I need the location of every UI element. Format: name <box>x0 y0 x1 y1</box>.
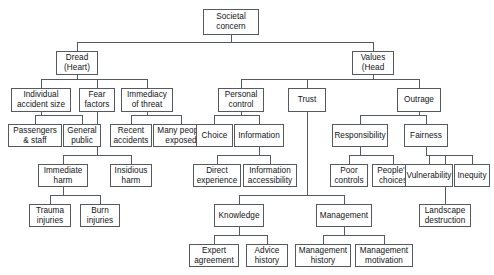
node-dread-heart: Dread (Heart) <box>56 51 98 75</box>
node-trauma-injuries: Trauma injuries <box>29 204 71 227</box>
node-management: Management <box>316 204 372 227</box>
node-fairness: Fairness <box>404 124 448 147</box>
node-values-head: Values (Head <box>352 51 394 75</box>
node-outrage: Outrage <box>397 88 441 112</box>
node-trust: Trust <box>288 88 326 112</box>
node-management-motivation: Management motivation <box>355 244 413 267</box>
node-information-access: Information accessibility <box>243 164 297 187</box>
node-responsibility: Responsibility <box>332 124 388 147</box>
node-immediacy-threat: Immediacy of threat <box>121 88 173 112</box>
node-information: Information <box>234 124 284 147</box>
node-societal-concern: Societal concern <box>203 9 259 35</box>
node-immediate-harm: Immediate harm <box>38 164 88 187</box>
node-direct-experience: Direct experience <box>193 164 241 187</box>
node-fear-factors: Fear factors <box>79 88 115 112</box>
node-expert-agreement: Expert agreement <box>189 244 239 267</box>
node-advice-history: Advice history <box>246 244 288 267</box>
node-general-public: General public <box>63 124 101 147</box>
node-insidious-harm: Insidious harm <box>110 164 152 187</box>
node-individual-accident: Individual accident size <box>11 88 71 112</box>
diagram-canvas: Societal concernDread (Heart)Values (Hea… <box>0 0 494 275</box>
node-choice: Choice <box>196 124 233 147</box>
node-recent-accidents: Recent accidents <box>110 124 152 147</box>
node-personal-control: Personal control <box>218 88 264 112</box>
node-knowledge: Knowledge <box>214 204 264 227</box>
node-vulnerability: Vulnerability <box>405 164 453 187</box>
node-passengers-staff: Passengers & staff <box>8 124 62 147</box>
node-burn-injuries: Burn injuries <box>80 204 120 227</box>
node-poor-controls: Poor controls <box>330 164 368 187</box>
node-inequity: Inequity <box>454 164 490 187</box>
node-landscape-destruction: Landscape destruction <box>419 204 471 227</box>
node-management-history: Management history <box>295 244 351 267</box>
